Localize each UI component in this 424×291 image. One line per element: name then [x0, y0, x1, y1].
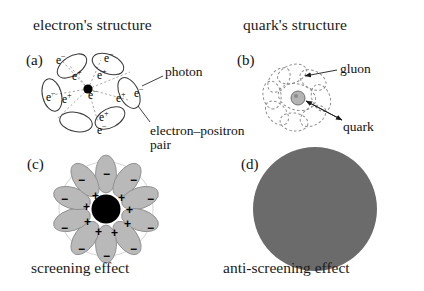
panel-a-letter: (a) [26, 52, 43, 69]
electron-positron-pair-line-2: pair [150, 138, 244, 152]
screening-inner-charge: + [126, 204, 133, 216]
quark-annotation: quark [343, 120, 374, 134]
quark-core [291, 91, 305, 105]
anti-screening-disc [253, 147, 377, 271]
electron-label: e− [134, 88, 144, 100]
screening-outer-charge: − [130, 243, 137, 255]
electron-positron-pair-annotation: electron–positron pair [150, 124, 244, 152]
gluon-annotation: gluon [340, 62, 371, 76]
positron-label: e+ [97, 70, 107, 82]
electron-positron-pair-line-1: electron–positron [150, 124, 244, 138]
screening-outer-charge: − [147, 222, 154, 234]
electron-label: e− [88, 90, 98, 102]
screening-inner-charge: + [111, 227, 118, 239]
panel-b-letter: (b) [237, 52, 255, 69]
screening-inner-charge: + [124, 218, 131, 230]
screening-outer-charge: − [78, 243, 85, 255]
positron-label: e+ [72, 71, 82, 83]
panel-c-letter: (c) [27, 156, 44, 173]
gluon-loops [261, 60, 334, 132]
electron-label: e− [46, 92, 56, 104]
physics-figure: electron's structure quark's structure (… [0, 0, 424, 291]
electron-label: e− [56, 55, 66, 67]
panel-b-title: quark's structure [243, 16, 347, 34]
screening-outer-charge: − [130, 174, 137, 186]
screening-inner-charge: + [103, 202, 110, 214]
electron-label: e− [104, 53, 114, 65]
quark-core-speckle [294, 94, 298, 98]
positron-label: e+ [99, 112, 109, 124]
screening-inner-charge: + [83, 201, 90, 213]
screening-outer-charge: − [61, 193, 68, 205]
screening-inner-charge: + [118, 192, 125, 204]
panel-a-title: electron's structure [33, 16, 152, 34]
panel-d-caption: anti-screening effect [223, 259, 350, 277]
screening-inner-charge: + [92, 190, 99, 202]
screening-inner-charge: + [84, 216, 91, 228]
screening-outer-charge: − [78, 174, 85, 186]
positron-label: e+ [62, 94, 72, 106]
photon-annotation: photon [165, 65, 203, 79]
electron-label: e− [97, 125, 107, 137]
screening-outer-charge: − [61, 222, 68, 234]
screening-inner-charge: + [95, 226, 102, 238]
positron-label: e+ [116, 93, 126, 105]
panel-b-leader-lines [305, 70, 342, 120]
panel-c-caption: screening effect [31, 259, 129, 277]
panel-d-letter: (d) [241, 156, 259, 173]
screening-outer-charge: − [103, 168, 110, 180]
screening-outer-charge: − [147, 193, 154, 205]
